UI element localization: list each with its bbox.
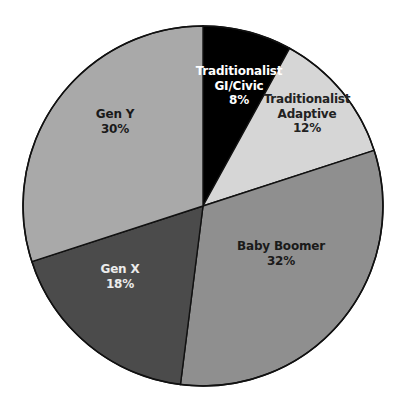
slice-value: 32% [237,254,325,269]
slice-label-line: GI/Civic [196,79,283,94]
slice-value: 30% [96,122,134,137]
slice-label-line: Gen X [101,262,140,277]
slice-label-line: Baby Boomer [237,239,325,254]
slice-label-traditionalist-adaptive: TraditionalistAdaptive12% [264,92,351,136]
slice-label-line: Traditionalist [264,92,351,107]
slice-value: 18% [101,277,140,292]
slice-label-line: Traditionalist [196,64,283,79]
slice-label-line: Adaptive [264,107,351,122]
slice-value: 12% [264,121,351,136]
pie-chart [0,0,402,412]
slice-label-gen-x: Gen X18% [101,262,140,291]
slice-label-baby-boomer: Baby Boomer32% [237,239,325,268]
slice-label-line: Gen Y [96,107,134,122]
slice-label-gen-y: Gen Y30% [96,107,134,136]
